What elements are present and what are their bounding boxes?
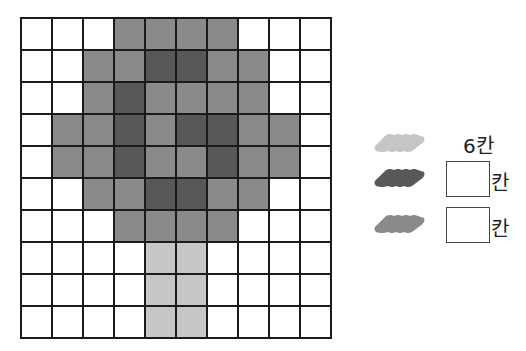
mid-crayon-swatch-icon	[368, 212, 428, 236]
grid-cell	[207, 178, 238, 210]
grid-cell	[176, 178, 207, 210]
dark-crayon-swatch-icon	[368, 166, 428, 190]
grid-cell	[207, 274, 238, 306]
grid-cell	[114, 18, 145, 50]
grid-cell	[52, 82, 83, 114]
grid-cell	[207, 210, 238, 242]
grid-cell	[176, 242, 207, 274]
grid-cell	[114, 114, 145, 146]
grid-cell	[300, 178, 331, 210]
grid-cell	[207, 50, 238, 82]
grid-cell	[300, 82, 331, 114]
dark-unit-label: 칸	[491, 167, 509, 196]
grid-cell	[238, 18, 269, 50]
grid-cell	[145, 146, 176, 178]
grid-cell	[176, 18, 207, 50]
grid-cell	[52, 210, 83, 242]
grid-cell	[207, 146, 238, 178]
grid-cell	[83, 50, 114, 82]
grid-cell	[269, 114, 300, 146]
grid-cell	[83, 18, 114, 50]
light-crayon-swatch-icon	[368, 131, 428, 155]
grid-cell	[145, 114, 176, 146]
grid-cell	[207, 114, 238, 146]
grid-cell	[21, 18, 52, 50]
grid-cell	[145, 50, 176, 82]
grid-cell	[300, 146, 331, 178]
grid-cell	[52, 18, 83, 50]
grid-cell	[238, 210, 269, 242]
grid-cell	[269, 18, 300, 50]
grid-cell	[145, 274, 176, 306]
grid-cell	[52, 114, 83, 146]
grid-cell	[300, 210, 331, 242]
grid-cell	[238, 82, 269, 114]
grid-cell	[300, 18, 331, 50]
grid-cell	[114, 306, 145, 338]
grid-cell	[21, 114, 52, 146]
grid-cell	[114, 146, 145, 178]
grid-cell	[21, 50, 52, 82]
grid-cell	[145, 178, 176, 210]
mid-unit-label: 칸	[491, 213, 509, 242]
grid-cell	[83, 274, 114, 306]
grid-cell	[83, 242, 114, 274]
grid-cell	[238, 306, 269, 338]
grid-cell	[52, 50, 83, 82]
grid-cell	[238, 178, 269, 210]
grid-cell	[300, 50, 331, 82]
grid-cell	[269, 178, 300, 210]
grid-cell	[114, 50, 145, 82]
grid-cell	[145, 210, 176, 242]
grid-cell	[176, 274, 207, 306]
grid-cell	[52, 146, 83, 178]
grid-cell	[52, 242, 83, 274]
grid-cell	[176, 50, 207, 82]
light-count-label: 6칸	[463, 130, 494, 159]
legend-light	[368, 131, 428, 155]
grid-cell	[176, 114, 207, 146]
grid-cell	[145, 18, 176, 50]
grid-cell	[83, 82, 114, 114]
dark-count-input[interactable]	[446, 161, 490, 197]
grid-cell	[176, 306, 207, 338]
grid-cell	[176, 146, 207, 178]
grid-cell	[207, 242, 238, 274]
grid-cell	[21, 82, 52, 114]
grid-cell	[21, 146, 52, 178]
grid-cell	[269, 82, 300, 114]
grid-cell	[83, 178, 114, 210]
grid-cell	[83, 306, 114, 338]
grid-cell	[21, 210, 52, 242]
grid-cell	[238, 274, 269, 306]
grid-cell	[21, 242, 52, 274]
grid-cell	[207, 306, 238, 338]
grid-cell	[176, 210, 207, 242]
legend-mid	[368, 212, 428, 236]
grid-cell	[52, 178, 83, 210]
grid-cell	[145, 242, 176, 274]
grid-cell	[300, 114, 331, 146]
legend-dark	[368, 166, 428, 190]
grid-cell	[145, 306, 176, 338]
grid-cell	[114, 242, 145, 274]
grid-cell	[114, 82, 145, 114]
grid-cell	[21, 178, 52, 210]
grid-cell	[269, 146, 300, 178]
grid-cell	[21, 274, 52, 306]
grid-cell	[145, 82, 176, 114]
mid-count-input[interactable]	[446, 207, 490, 243]
grid-cell	[114, 178, 145, 210]
grid-cell	[300, 242, 331, 274]
grid-cell	[238, 146, 269, 178]
grid-cell	[238, 242, 269, 274]
grid-cell	[83, 114, 114, 146]
grid-cell	[83, 210, 114, 242]
grid-cell	[269, 50, 300, 82]
grid-cell	[114, 274, 145, 306]
grid-cell	[269, 306, 300, 338]
grid-cell	[207, 82, 238, 114]
grid-cell	[269, 242, 300, 274]
grid-cell	[207, 18, 238, 50]
grid-cell	[176, 82, 207, 114]
